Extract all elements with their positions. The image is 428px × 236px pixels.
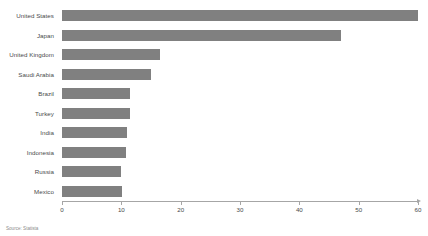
bar: [62, 127, 127, 138]
category-label: Russia: [0, 168, 58, 175]
bar-row: Turkey: [0, 104, 428, 124]
plot-area: United StatesJapanUnited KingdomSaudi Ar…: [0, 6, 428, 201]
x-tick-label: 30: [237, 206, 244, 214]
x-tick-label: 20: [177, 206, 184, 214]
x-tick: [299, 202, 300, 205]
x-tick: [62, 202, 63, 205]
bar-track: [58, 65, 428, 85]
bar-row: Mexico: [0, 182, 428, 202]
bar-track: [58, 162, 428, 182]
category-label: Japan: [0, 32, 58, 39]
bar-track: [58, 26, 428, 46]
x-tick-label: 40: [296, 206, 303, 214]
bar-row: Brazil: [0, 84, 428, 104]
x-tick: [240, 202, 241, 205]
category-label: United Kingdom: [0, 51, 58, 58]
category-label: Brazil: [0, 90, 58, 97]
x-tick: [359, 202, 360, 205]
x-tick-label: 0: [60, 206, 63, 214]
source-note: Source: Statista: [6, 226, 38, 232]
bar: [62, 147, 126, 158]
bar-track: [58, 143, 428, 163]
bar-row: United States: [0, 6, 428, 26]
bar: [62, 49, 160, 60]
category-label: India: [0, 129, 58, 136]
bar-track: [58, 6, 428, 26]
bar: [62, 30, 341, 41]
bar-track: [58, 45, 428, 65]
bar: [62, 10, 418, 21]
x-tick-label: 60: [415, 206, 422, 214]
category-label: Indonesia: [0, 149, 58, 156]
bar-track: [58, 182, 428, 202]
category-label: Mexico: [0, 188, 58, 195]
bar-chart: United StatesJapanUnited KingdomSaudi Ar…: [0, 0, 428, 236]
x-tick-label: 50: [355, 206, 362, 214]
bar-row: India: [0, 123, 428, 143]
x-tick: [121, 202, 122, 205]
bar: [62, 186, 122, 197]
bar-track: [58, 104, 428, 124]
bar-row: Saudi Arabia: [0, 65, 428, 85]
bar: [62, 88, 130, 99]
bar-track: [58, 123, 428, 143]
bar-row: United Kingdom: [0, 45, 428, 65]
category-label: United States: [0, 12, 58, 19]
bar: [62, 69, 151, 80]
x-tick-label: 10: [118, 206, 125, 214]
x-tick: [418, 202, 419, 205]
category-label: Saudi Arabia: [0, 71, 58, 78]
bar-row: Indonesia: [0, 143, 428, 163]
bar-row: Japan: [0, 26, 428, 46]
bar: [62, 108, 130, 119]
category-label: Turkey: [0, 110, 58, 117]
bar: [62, 166, 121, 177]
x-tick: [181, 202, 182, 205]
x-axis: 0102030405060: [0, 201, 428, 223]
bar-row: Russia: [0, 162, 428, 182]
bar-track: [58, 84, 428, 104]
